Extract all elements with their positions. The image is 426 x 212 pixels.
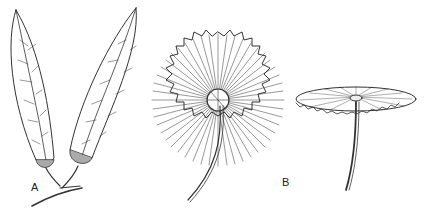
leaf-b-top <box>152 30 284 202</box>
stem-a <box>32 188 82 206</box>
illustration <box>0 0 426 212</box>
leaf-a-right <box>62 8 136 188</box>
leaf-a-left <box>11 10 60 186</box>
panel-label-a: A <box>31 181 38 193</box>
botanical-figure: A B <box>0 0 426 212</box>
leaf-b-side <box>296 87 416 190</box>
panel-label-b: B <box>282 176 289 188</box>
